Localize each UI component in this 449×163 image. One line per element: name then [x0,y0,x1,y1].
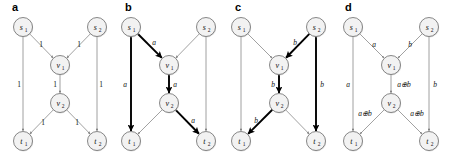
node-label-s1: s [350,23,353,32]
node-circle [197,18,216,37]
edge-label-s1-v1: 1 [39,40,43,49]
edge-label-v2-t2: 1 [75,118,79,127]
node-label-s1: s [238,23,241,32]
node-label-v2: v [276,99,280,108]
edge-v2-to-t2 [176,110,199,134]
node-label-v1: v [388,61,392,70]
node-v1: v1 [160,56,180,76]
edge-label-s1-v1: a [152,38,156,47]
panel-a: a1111111s1s2v1v2t1t2 [0,0,113,163]
node-sublabel-v2: 2 [171,103,174,109]
node-sublabel-t2: 2 [318,141,321,147]
node-circle [307,132,326,151]
node-s2: s2 [420,18,440,38]
node-label-v1: v [276,61,280,70]
node-sublabel-v2: 2 [281,103,284,109]
panel-graph-c: bbbbs1s2v1v2t1t2 [223,0,333,163]
node-v1: v1 [382,56,402,76]
node-sublabel-v1: 1 [62,65,65,71]
node-label-s2: s [203,23,206,32]
edge-label-v2-t1: 1 [41,118,45,127]
node-sublabel-s2: 2 [208,27,211,33]
edge-label-s1-t1: a [346,80,350,89]
node-sublabel-s2: 2 [431,27,434,33]
node-t1: t1 [122,132,142,152]
edge-s1-to-v1 [248,34,272,58]
edge-label-v2-t2: a⊕b [410,109,424,118]
panel-graph-a: 1111111s1s2v1v2t1t2 [0,0,113,163]
edge-line [286,34,309,58]
node-s1: s1 [14,18,34,38]
node-t2: t2 [197,132,217,152]
edge-v2-to-t2 [286,110,309,134]
panel-c: cbbbbs1s2v1v2t1t2 [223,0,333,163]
node-sublabel-s1: 1 [133,27,136,33]
node-sublabel-t1: 1 [355,141,358,147]
node-sublabel-v1: 1 [281,65,284,71]
panel-graph-b: aaaas1s2v1v2t1t2 [113,0,223,163]
node-sublabel-t1: 1 [133,141,136,147]
node-t2: t2 [307,132,327,152]
node-circle [344,18,363,37]
node-circle [88,18,107,37]
node-circle [197,132,216,151]
node-s2: s2 [88,18,108,38]
node-circle [344,132,363,151]
node-circle [232,132,251,151]
node-s1: s1 [122,18,142,38]
edge-s2-to-v1 [176,34,199,58]
edge-s1-to-v1 [138,34,162,58]
edge-line [176,110,199,134]
node-s1: s1 [344,18,364,38]
node-circle [420,18,439,37]
edge-label-s2-t2: 1 [99,80,103,89]
node-label-v2: v [166,99,170,108]
edge-label-s2-v1: 1 [77,40,81,49]
node-circle [14,18,33,37]
edge-label-v2-t2: a [191,116,195,125]
node-s2: s2 [197,18,217,38]
node-label-v2: v [388,99,392,108]
edge-line [286,110,309,134]
edge-label-v1-v2: b [271,80,275,89]
edge-label-s2-v1: b [293,38,297,47]
node-sublabel-s2: 2 [318,27,321,33]
node-sublabel-s2: 2 [99,27,102,33]
node-v2: v2 [51,94,71,114]
node-label-s2: s [313,23,316,32]
node-t1: t1 [344,132,364,152]
panel-graph-d: aba⊕ba⊕ba⊕babs1s2v1v2t1t2 [333,0,449,163]
network-coding-figure: a1111111s1s2v1v2t1t2baaaas1s2v1v2t1t2cbb… [0,0,449,163]
node-sublabel-s1: 1 [243,27,246,33]
node-circle [14,132,33,151]
edge-line [138,110,162,134]
edge-v2-to-t1 [248,110,272,134]
node-label-v1: v [166,61,170,70]
edge-label-s1-t1: a [123,80,127,89]
node-sublabel-v1: 1 [393,65,396,71]
node-sublabel-t1: 1 [243,141,246,147]
node-sublabel-s1: 1 [355,27,358,33]
panel-d: daba⊕ba⊕ba⊕babs1s2v1v2t1t2 [333,0,449,163]
edge-label-s2-t2: b [320,80,324,89]
node-label-v2: v [57,99,61,108]
edge-label-v2-t1: a⊕b [358,109,372,118]
node-circle [88,132,107,151]
node-sublabel-v2: 2 [62,103,65,109]
panel-b: baaaas1s2v1v2t1t2 [113,0,223,163]
node-label-s2: s [426,23,429,32]
node-label-v1: v [57,61,61,70]
edge-line [176,34,199,58]
node-sublabel-s1: 1 [25,27,28,33]
edge-line [138,34,162,58]
edge-label-v2-t1: b [254,116,258,125]
edge-s2-to-v1 [286,34,309,58]
node-sublabel-t1: 1 [25,141,28,147]
node-t1: t1 [232,132,252,152]
edge-label-v1-v2: a [173,80,177,89]
node-v2: v2 [382,94,402,114]
edge-label-s1-v1: a [372,40,376,49]
node-label-s1: s [20,23,23,32]
node-sublabel-t2: 2 [99,141,102,147]
node-circle [420,132,439,151]
